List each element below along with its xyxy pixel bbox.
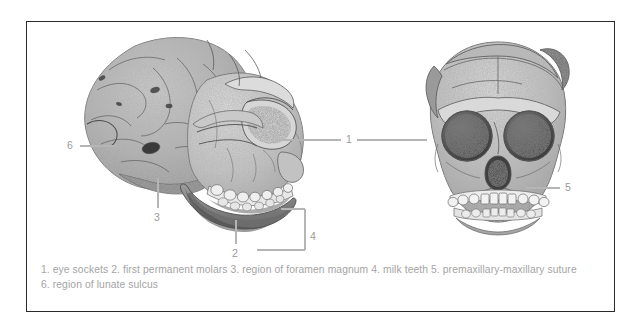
callout-number-2: 2 xyxy=(232,248,238,259)
orbit-right xyxy=(504,111,554,161)
callout-number-5: 5 xyxy=(565,182,571,193)
callout-number-3: 3 xyxy=(154,212,160,223)
callout-number-4: 4 xyxy=(310,231,316,242)
callout-number-1: 1 xyxy=(346,134,352,145)
skull-lateral-illustration xyxy=(57,28,317,243)
plate-frame: 6 3 2 4 1 5 1. eye sockets 2. first perm… xyxy=(26,21,615,312)
facial-skeleton xyxy=(188,73,304,206)
orbit-left xyxy=(442,111,492,161)
illustration-area: 6 3 2 4 1 5 xyxy=(27,22,616,254)
callout-number-6: 6 xyxy=(67,140,73,151)
nasal-aperture xyxy=(485,156,511,190)
skull-frontal-illustration xyxy=(412,36,587,236)
caption-line-1: 1. eye sockets 2. first permanent molars… xyxy=(41,262,601,277)
figure-caption: 1. eye sockets 2. first permanent molars… xyxy=(41,262,601,292)
figure-plate: 6 3 2 4 1 5 1. eye sockets 2. first perm… xyxy=(0,0,641,334)
caption-line-2: 6. region of lunate sulcus xyxy=(41,277,601,292)
